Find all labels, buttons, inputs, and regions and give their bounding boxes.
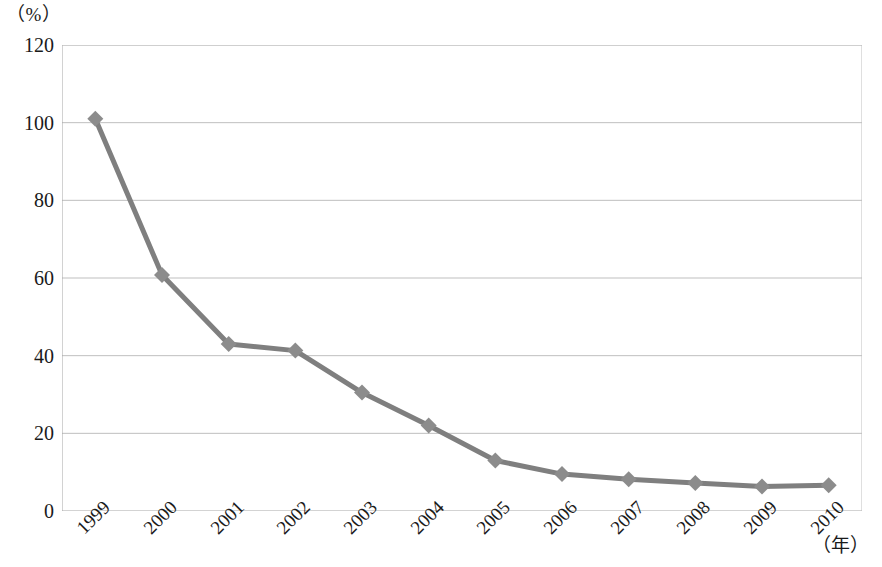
x-axis-tick-label: 2005 [473, 497, 513, 537]
x-axis-tick-label: 2010 [807, 497, 847, 537]
x-axis-tick-label: 2001 [207, 497, 247, 537]
x-axis-tick-label: 2002 [273, 497, 313, 537]
x-axis-tick-labels: 1999200020012002200320042005200620072008… [0, 0, 882, 567]
line-chart: （%） 020406080100120 19992000200120022003… [0, 0, 882, 567]
x-axis-tick-label: 2004 [407, 497, 447, 537]
x-axis-tick-label: 1999 [73, 497, 113, 537]
x-axis-tick-label: 2009 [740, 497, 780, 537]
x-axis-tick-label: 2006 [540, 497, 580, 537]
x-axis-tick-label: 2003 [340, 497, 380, 537]
x-axis-tick-label: 2008 [673, 497, 713, 537]
x-axis-tick-label: 2007 [607, 497, 647, 537]
x-axis-tick-label: 2000 [140, 497, 180, 537]
x-axis-unit-label: （年） [812, 536, 869, 555]
